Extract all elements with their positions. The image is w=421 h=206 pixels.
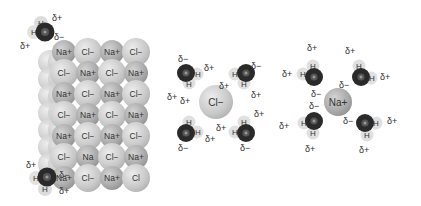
water-molecule-icon: HH: [174, 112, 208, 146]
svg-text:H: H: [301, 119, 307, 128]
ion-label: Na+: [329, 97, 348, 108]
svg-text:H: H: [373, 119, 379, 128]
water-molecule-icon: HH: [174, 60, 208, 94]
charge-label: δ+: [167, 93, 177, 102]
charge-label: δ+: [219, 82, 229, 91]
charge-label: δ−: [54, 33, 64, 42]
water-molecule-na-bottom-left: HH: [296, 107, 330, 141]
chloride-ion: Cl: [122, 164, 150, 192]
water-molecule-cl-bottom-left: HH: [174, 112, 208, 146]
water-molecule-icon: HH: [296, 107, 330, 141]
sodium-ion: Na+: [100, 166, 124, 190]
svg-text:H: H: [241, 80, 247, 89]
water-molecule-cl-top-left: HH: [174, 60, 208, 94]
charge-label: δ−: [59, 171, 69, 180]
svg-text:H: H: [356, 62, 362, 71]
charge-label: δ+: [59, 187, 69, 196]
diagram-stage: Na+Cl−Na+Cl−Cl−Na+Cl−Na+Na+Cl−Na+Cl−Cl−N…: [0, 0, 421, 206]
svg-text:H: H: [38, 19, 44, 28]
charge-label: δ+: [359, 146, 369, 155]
water-molecule-icon: HH: [352, 110, 386, 144]
charge-label: δ+: [345, 47, 355, 56]
charge-label: δ+: [26, 161, 36, 170]
charge-label: δ−: [343, 117, 353, 126]
svg-text:H: H: [33, 174, 39, 183]
charge-label: δ+: [216, 124, 226, 133]
svg-text:H: H: [186, 80, 192, 89]
svg-text:H: H: [42, 185, 48, 194]
charge-label: δ+: [380, 73, 390, 82]
ion-label: Cl−: [208, 97, 223, 108]
charge-label: δ+: [204, 64, 214, 73]
svg-text:H: H: [241, 118, 247, 127]
water-molecule-na-bottom-right: HH: [352, 110, 386, 144]
charge-label: δ+: [305, 145, 315, 154]
charge-label: δ+: [20, 42, 30, 51]
charge-label: δ−: [178, 55, 188, 64]
svg-text:H: H: [186, 118, 192, 127]
charge-label: δ+: [251, 91, 261, 100]
charge-label: δ−: [251, 62, 261, 71]
svg-text:H: H: [232, 70, 238, 79]
charge-label: δ+: [254, 110, 264, 119]
charge-label: δ−: [339, 81, 349, 90]
charge-label: δ+: [180, 97, 190, 106]
charge-label: δ+: [307, 44, 317, 53]
charge-label: δ−: [178, 144, 188, 153]
charge-label: δ+: [279, 122, 289, 131]
charge-label: δ+: [282, 70, 292, 79]
water-molecule-na-top-right: HH: [349, 58, 383, 92]
charge-label: δ−: [240, 144, 250, 153]
svg-text:H: H: [300, 70, 306, 79]
svg-text:H: H: [364, 131, 370, 140]
charge-label: δ−: [311, 90, 321, 99]
svg-text:H: H: [195, 128, 201, 137]
svg-text:H: H: [310, 62, 316, 71]
charge-label: δ+: [205, 135, 215, 144]
svg-text:H: H: [310, 129, 316, 138]
charge-label: δ+: [387, 117, 397, 126]
chloride-ion: Cl−: [74, 164, 102, 192]
water-molecule-na-top-left: HH: [295, 58, 329, 92]
water-molecule-icon: HH: [295, 58, 329, 92]
svg-text:H: H: [195, 70, 201, 79]
svg-text:H: H: [31, 28, 37, 37]
water-molecule-icon: HH: [349, 58, 383, 92]
charge-label: δ+: [52, 14, 62, 23]
charge-label: δ−: [309, 102, 319, 111]
svg-text:H: H: [369, 74, 375, 83]
svg-text:H: H: [232, 128, 238, 137]
